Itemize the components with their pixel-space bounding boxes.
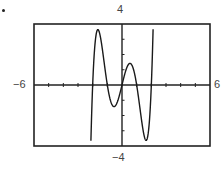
graph-window <box>0 0 221 177</box>
